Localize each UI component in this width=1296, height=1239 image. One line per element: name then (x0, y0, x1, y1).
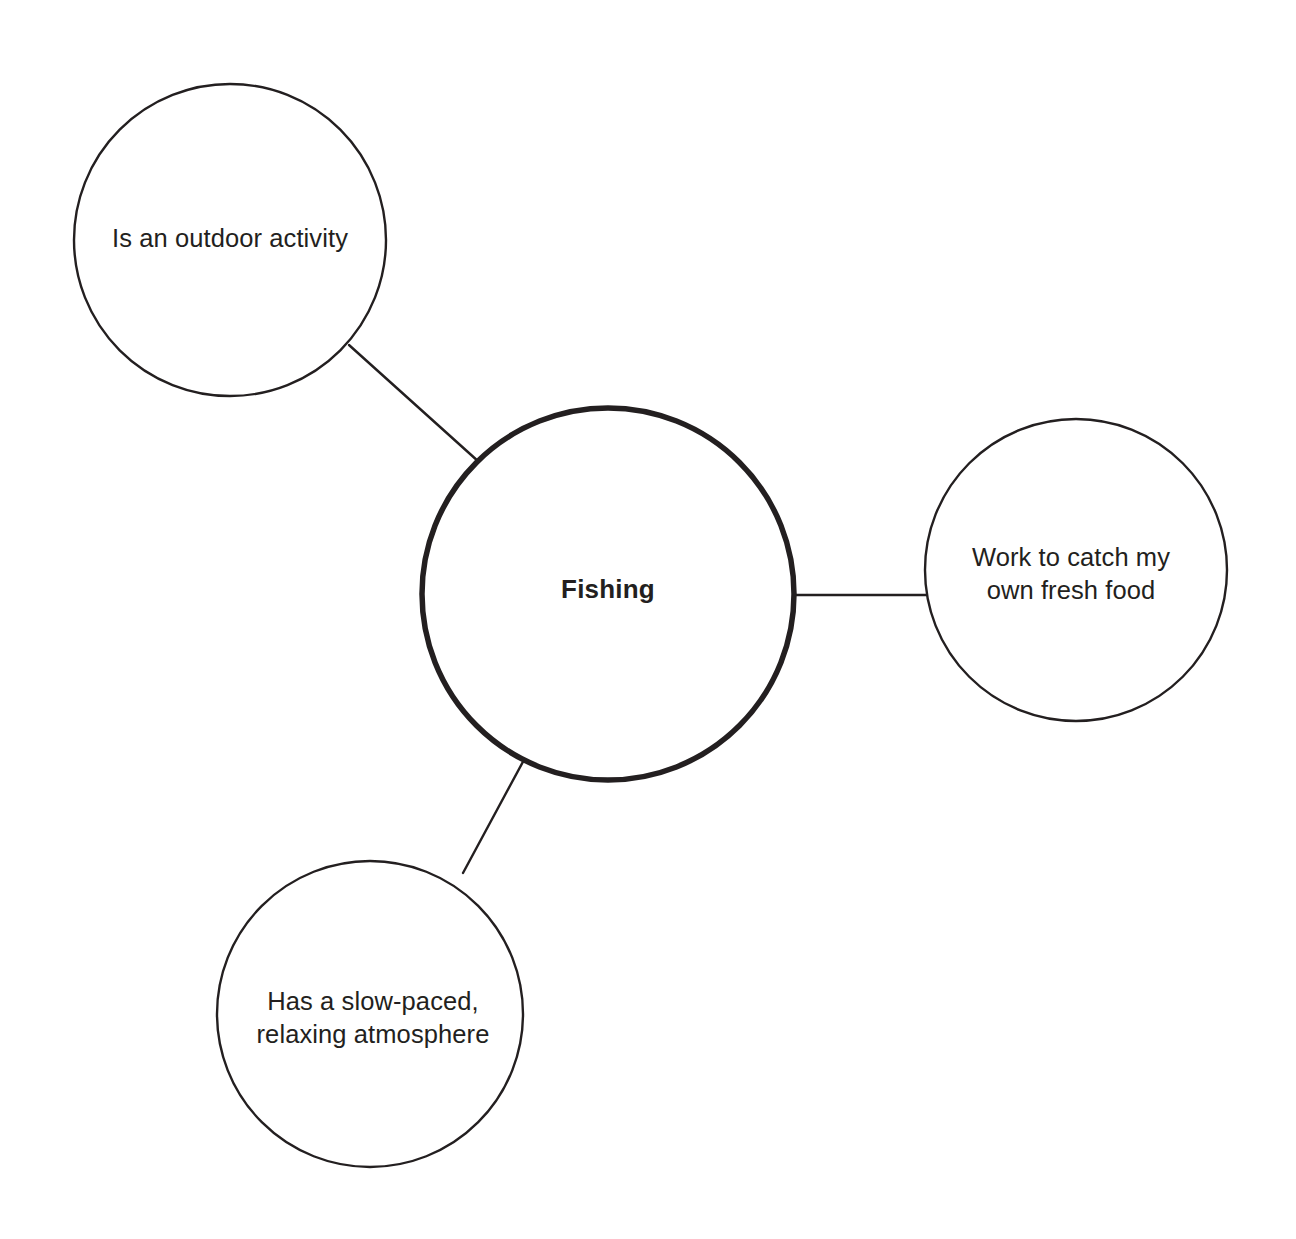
node-circle-relaxing-atmosphere[interactable] (217, 861, 523, 1167)
node-circle-fishing[interactable] (422, 408, 794, 780)
concept-map-graphic (0, 0, 1296, 1239)
node-circle-outdoor-activity[interactable] (74, 84, 386, 396)
connector-outdoor-activity-line (349, 345, 479, 462)
node-circle-fresh-food[interactable] (925, 419, 1227, 721)
diagram-canvas: Is an outdoor activity Work to catch my … (0, 0, 1296, 1239)
connector-relaxing-atmosphere-line (463, 758, 525, 873)
